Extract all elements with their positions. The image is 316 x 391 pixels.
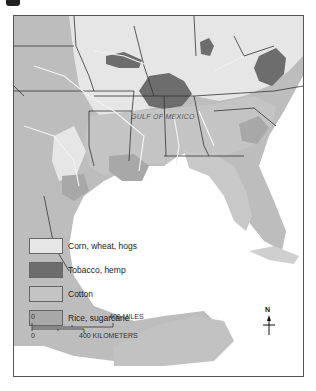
legend-label: Cotton	[68, 289, 93, 299]
legend-item: Cotton	[29, 282, 137, 306]
scale-bar: 0 400 MILES 0 400 KILOMETERS	[29, 313, 169, 353]
legend-item: Corn, wheat, hogs	[29, 234, 137, 258]
north-arrow: N	[262, 306, 276, 336]
land-cuba	[249, 246, 299, 264]
legend-label: Tobacco, hemp	[68, 265, 126, 275]
legend-swatch-corn	[29, 238, 63, 254]
figure-marker	[6, 0, 20, 6]
scale-km-start: 0	[31, 332, 35, 339]
legend-swatch-cotton	[29, 286, 63, 302]
compass-icon	[262, 306, 276, 336]
legend-label: Corn, wheat, hogs	[68, 241, 137, 251]
legend-swatch-tobacco	[29, 262, 63, 278]
map-frame: GULF OF MEXICO Corn, wheat, hogs Tobacco…	[13, 15, 304, 377]
scale-km-end: 400 KILOMETERS	[79, 332, 138, 339]
legend-item: Tobacco, hemp	[29, 258, 137, 282]
gulf-of-mexico-label: GULF OF MEXICO	[131, 113, 195, 120]
